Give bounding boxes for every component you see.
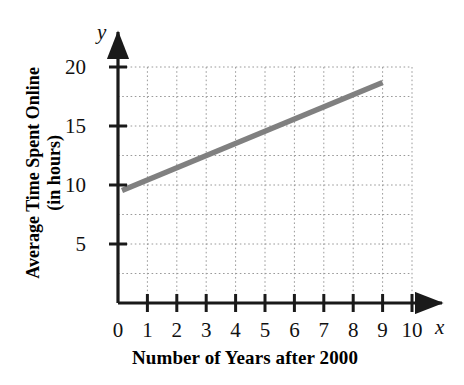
x-tick-label-1: 1 bbox=[132, 320, 162, 341]
data-line-series bbox=[122, 83, 383, 191]
y-axis-title-line1: Average Time Spent Online bbox=[23, 67, 43, 279]
x-axis-title: Number of Years after 2000 bbox=[70, 347, 420, 369]
x-tick-label-3: 3 bbox=[191, 320, 221, 341]
x-tick-label-9: 9 bbox=[368, 320, 398, 341]
x-tick-label-2: 2 bbox=[162, 320, 192, 341]
x-tick-label-0: 0 bbox=[103, 320, 133, 341]
x-tick-label-6: 6 bbox=[279, 320, 309, 341]
y-axis-title: Average Time Spent Online (in hours) bbox=[23, 23, 65, 323]
x-tick-label-5: 5 bbox=[250, 320, 280, 341]
y-axis-title-line2: (in hours) bbox=[44, 23, 65, 323]
x-tick-label-8: 8 bbox=[338, 320, 368, 341]
grid-vertical bbox=[147, 67, 412, 303]
x-tick-label-7: 7 bbox=[309, 320, 339, 341]
y-axis-letter: y bbox=[97, 22, 106, 43]
x-tick-label-10: 10 bbox=[397, 320, 427, 341]
chart-figure: 20 15 10 5 0 1 2 3 4 5 6 7 8 9 10 y x Nu… bbox=[0, 0, 464, 385]
x-tick-label-4: 4 bbox=[221, 320, 251, 341]
x-axis-letter: x bbox=[435, 317, 444, 338]
